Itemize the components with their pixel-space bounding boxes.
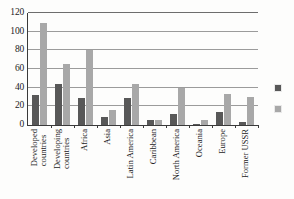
chart-legend — [272, 83, 288, 115]
bar — [224, 94, 231, 125]
y-axis-tick-label: 80 — [2, 45, 24, 55]
bar — [239, 122, 246, 125]
label-line: Former USSR — [240, 129, 250, 178]
bar — [132, 84, 139, 125]
x-axis-tick — [189, 125, 190, 128]
label-line: Developed — [28, 129, 38, 166]
x-axis-category-label: Africa — [73, 129, 96, 199]
x-axis-category-label: Oceania — [188, 129, 211, 199]
bar-group — [212, 13, 235, 125]
bar — [55, 84, 62, 125]
x-axis-category-label-text: Latin America — [126, 129, 135, 178]
x-axis-category-label-text: Europe — [218, 129, 227, 154]
bar-group — [143, 13, 166, 125]
bar — [247, 97, 254, 125]
bar-group — [74, 13, 97, 125]
x-axis-tick — [120, 125, 121, 128]
label-line: Africa — [79, 129, 89, 151]
dark-gray-swatch — [274, 84, 282, 92]
bar — [78, 98, 85, 125]
label-line: Caribbean — [148, 129, 158, 164]
bar — [178, 88, 185, 125]
x-axis-category-label-text: Developedcountries — [29, 129, 47, 166]
bar-group — [97, 13, 120, 125]
x-axis-category-label: Latin America — [119, 129, 142, 199]
x-axis-category-label: Developingcountries — [50, 129, 73, 199]
x-axis-tick — [258, 125, 259, 128]
plot-area — [27, 13, 258, 126]
x-axis-category-label: Caribbean — [142, 129, 165, 199]
bar — [32, 95, 39, 125]
bar — [86, 50, 93, 125]
bar — [155, 120, 162, 125]
label-line: North America — [171, 129, 181, 180]
y-axis-tick-label: 0 — [2, 120, 24, 130]
bar — [201, 120, 208, 125]
y-axis-tick-label: 100 — [2, 27, 24, 37]
x-axis-category-label-text: Caribbean — [149, 129, 158, 164]
x-axis-category-label-text: North America — [172, 129, 181, 180]
x-axis-category-label: Developedcountries — [27, 129, 50, 199]
x-axis-category-label-text: Africa — [80, 129, 89, 151]
label-line: Developing — [51, 129, 61, 169]
label-line: Asia — [102, 129, 112, 145]
bar — [124, 98, 131, 125]
x-axis-category-label-text: Oceania — [195, 129, 204, 157]
label-line: countries — [62, 129, 71, 169]
bar — [147, 120, 154, 125]
x-axis-tick — [74, 125, 75, 128]
x-axis-tick — [51, 125, 52, 128]
x-axis-category-label: Former USSR — [234, 129, 257, 199]
bar — [101, 117, 108, 125]
bar — [193, 124, 200, 125]
bar — [109, 110, 116, 125]
x-axis-category-label: Europe — [211, 129, 234, 199]
bar — [40, 23, 47, 125]
x-axis-category-label-text: Developingcountries — [52, 129, 70, 169]
y-axis-tick-label: 60 — [2, 64, 24, 74]
x-axis-category-labels: DevelopedcountriesDevelopingcountriesAfr… — [27, 129, 257, 199]
x-axis-tick — [143, 125, 144, 128]
bar-group — [28, 13, 51, 125]
bar-group — [166, 13, 189, 125]
x-axis-tick — [235, 125, 236, 128]
x-axis-category-label-text: Asia — [103, 129, 112, 145]
y-axis-tick-label: 40 — [2, 83, 24, 93]
x-axis-category-label: Asia — [96, 129, 119, 199]
y-axis-tick-label: 20 — [2, 101, 24, 111]
label-line: countries — [39, 129, 48, 166]
bar — [63, 64, 70, 125]
legend-item[interactable] — [272, 104, 288, 114]
x-axis-category-label-text: Former USSR — [241, 129, 250, 178]
bar-group — [235, 13, 258, 125]
bar-group — [189, 13, 212, 125]
bar — [216, 112, 223, 125]
x-axis-tick — [166, 125, 167, 128]
light-gray-swatch — [274, 105, 282, 113]
bar-group — [120, 13, 143, 125]
x-axis-tick — [97, 125, 98, 128]
x-axis-tick — [212, 125, 213, 128]
bar-group — [51, 13, 74, 125]
bar-chart: 120100806040200 DevelopedcountriesDevelo… — [0, 0, 294, 199]
legend-item[interactable] — [272, 83, 288, 93]
bars-layer — [28, 13, 258, 125]
bar — [170, 114, 177, 125]
y-axis-tick-label: 120 — [2, 8, 24, 18]
y-axis-tick-labels: 120100806040200 — [2, 0, 24, 199]
label-line: Oceania — [194, 129, 204, 157]
label-line: Europe — [217, 129, 227, 154]
label-line: Latin America — [125, 129, 135, 178]
x-axis-category-label: North America — [165, 129, 188, 199]
